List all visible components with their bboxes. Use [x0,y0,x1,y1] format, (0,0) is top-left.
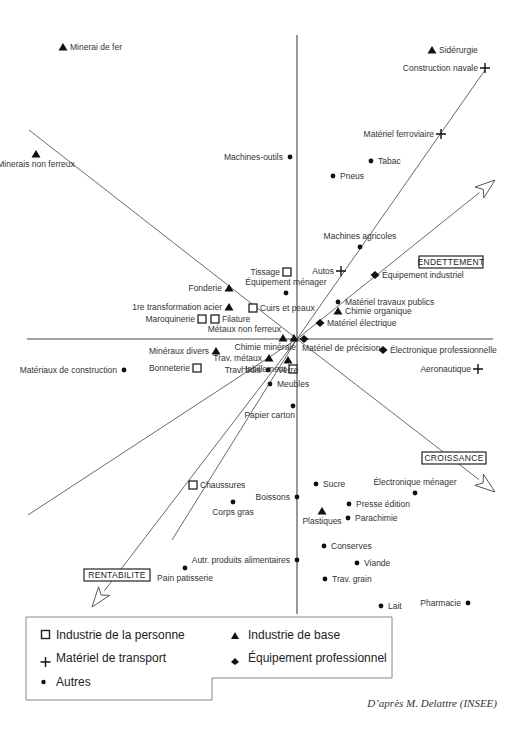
point-label: Tabac [378,156,401,166]
point-label: Plastiques [302,516,341,526]
triangle-marker-icon [318,507,327,515]
plus-marker-icon [480,63,490,73]
circle-marker-icon [346,516,351,521]
circle-marker-icon [358,245,363,250]
point-label: Métaux non ferreux [208,324,282,334]
point-label: Maroquinerie [145,314,195,324]
square-marker-icon [189,481,197,489]
triangle-marker-icon [279,334,288,342]
axis-label-rentabilite: RENTABILITE [84,569,150,581]
point-label: Trav. bois [225,365,261,375]
triangle-marker-icon [225,284,234,292]
legend-item-transport: Matériel de transport [41,651,167,667]
plus-marker-icon [473,364,483,374]
point-label: Sucre [323,479,345,489]
axis-label-croissance: CROISSANCE [422,452,486,464]
circle-marker-icon [413,491,418,496]
point-label: Boissons [256,492,291,502]
square-marker-icon [193,364,201,372]
triangle-marker-icon [32,150,41,158]
circle-marker-icon [347,502,352,507]
point-label: Filature [222,314,251,324]
circle-marker-icon [336,300,341,305]
point-label: Trav. grain [332,574,372,584]
point-label: Équipement industriel [382,270,464,280]
circle-marker-icon [231,500,236,505]
point-label: Verre [278,365,299,375]
square-marker-icon [283,268,291,276]
point-label: Autr. produits alimentaires [192,555,290,565]
point-label: Chimie organique [345,306,412,316]
circle-marker-icon [291,404,296,409]
point-label: Corps gras [212,507,254,517]
svg-text:Équipement professionnel: Équipement professionnel [248,650,387,665]
diamond-marker-icon [316,319,325,327]
svg-text:Matériel de transport: Matériel de transport [56,651,167,665]
point-label: Matériel de précision [302,343,381,353]
point-label: Matériel électrique [327,318,397,328]
point-label: Minéraux divers [149,346,209,356]
circle-marker-icon [322,544,327,549]
point-label: Minerai de fer [70,42,122,52]
point-label: Sidérurgie [439,45,478,55]
source-credit: D’après M. Delattre (INSEE) [366,697,497,710]
circle-marker-icon [379,604,384,609]
arrow-head-icon [475,180,495,198]
triangle-marker-icon [59,43,68,51]
circle-marker-icon [466,601,471,606]
point-label: Électronique professionnelle [390,345,497,355]
point-label: Matériel ferroviaire [364,129,435,139]
point-label: Tissage [251,267,281,277]
point-label: Pharmacie [420,598,461,608]
square-marker-icon [211,315,219,323]
circle-marker-icon [288,155,293,160]
svg-text:Autres: Autres [56,675,91,689]
square-marker-icon [42,631,50,639]
circle-marker-icon [284,291,289,296]
point-label: Équipement ménager [245,277,326,287]
point-label: Matériel travaux publics [345,297,434,307]
point-label: Électronique ménager [373,477,456,487]
point-label: Bonneterie [149,363,190,373]
data-labels: TissageCuirs et peauxMaroquinerieFilatur… [0,42,497,611]
circle-marker-icon [41,680,45,684]
circle-marker-icon [323,577,328,582]
point-label: Trav. métaux [213,353,262,363]
point-label: Lait [388,601,402,611]
triangle-marker-icon [284,356,293,364]
svg-text:Industrie de la personne: Industrie de la personne [56,628,185,642]
legend-item-base: Industrie de base [231,628,340,642]
circle-marker-icon [331,174,336,179]
point-label: Machines-outils [224,152,283,162]
point-label: Conserves [331,541,372,551]
point-label: Pain patisserie [157,573,213,583]
square-marker-icon [198,315,206,323]
legend-item-equipement: Équipement professionnel [231,650,387,665]
point-label: Chaussures [200,480,245,490]
plus-marker-icon [336,266,346,276]
point-label: Pneus [340,171,364,181]
circle-marker-icon [295,495,300,500]
point-label: 1re transformation acier [132,302,222,312]
circle-marker-icon [369,159,374,164]
factorial-plane-chart: TissageCuirs et peauxMaroquinerieFilatur… [0,0,524,738]
arrow-head-icon [92,587,110,607]
point-label: Parachimie [355,513,398,523]
point-label: Papier carton [244,410,295,420]
croissance-label: CROISSANCE [424,453,483,463]
svg-text:Industrie de base: Industrie de base [248,628,340,642]
circle-marker-icon [268,382,273,387]
point-label: Machines agricoles [324,231,397,241]
diamond-marker-icon [371,271,380,279]
point-label: Minerais non ferreux [0,159,75,169]
point-label: Aeronautique [420,364,471,374]
legend-item-personne: Industrie de la personne [42,628,186,642]
square-marker-icon [249,304,257,312]
rentabilite-label: RENTABILITE [88,570,145,580]
endettement-label: ENDETTEMENT [417,257,484,267]
circle-marker-icon [314,482,319,487]
direction-axis-rentabilite [104,339,297,591]
circle-marker-icon [295,558,300,563]
circle-marker-icon [355,561,360,566]
circle-marker-icon [122,368,127,373]
